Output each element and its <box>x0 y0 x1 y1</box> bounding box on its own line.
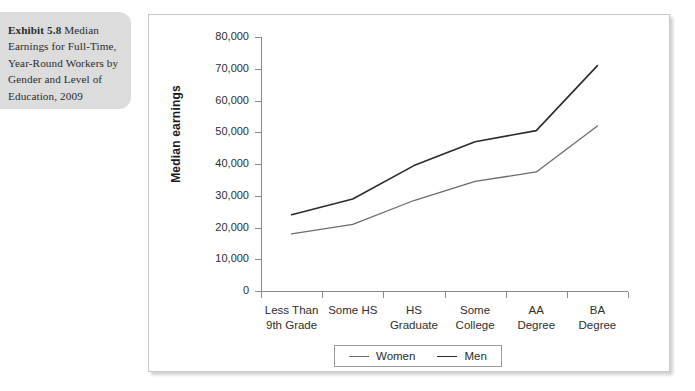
legend-entry-women[interactable]: Women <box>349 350 415 362</box>
legend-entry-men[interactable]: Men <box>437 350 486 362</box>
legend-line-swatch-men-icon <box>437 356 457 357</box>
chart-series-layer <box>149 15 669 371</box>
series-line-men <box>292 66 598 215</box>
series-line-women <box>292 126 598 234</box>
chart-figure-frame: Median earnings 80,00070,00060,00050,000… <box>148 14 670 372</box>
legend-label-women: Women <box>376 350 415 362</box>
legend-line-swatch-women-icon <box>349 356 369 357</box>
chart-plot-area: Median earnings 80,00070,00060,00050,000… <box>149 15 669 371</box>
exhibit-caption-box: Exhibit 5.8 Median Earnings for Full-Tim… <box>0 12 131 109</box>
chart-legend: Women Men <box>334 345 502 367</box>
legend-label-men: Men <box>464 350 486 362</box>
exhibit-caption-lead: Exhibit 5.8 <box>8 24 61 36</box>
exhibit-caption-text: Exhibit 5.8 Median Earnings for Full-Tim… <box>8 22 119 104</box>
